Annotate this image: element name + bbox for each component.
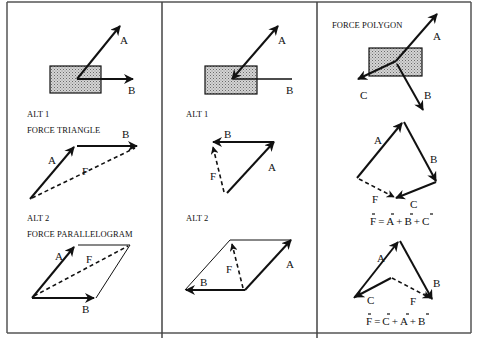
eq-A: A bbox=[386, 215, 394, 227]
eq-F: F bbox=[370, 215, 376, 227]
label-B: B bbox=[82, 303, 89, 315]
vector-B bbox=[404, 122, 436, 181]
alt1-label: ALT 1 bbox=[186, 109, 208, 119]
vector-B bbox=[400, 241, 432, 299]
force-triangle: A B F bbox=[30, 128, 137, 199]
force-parallelogram: A F B bbox=[32, 245, 130, 315]
middle-body-diagram: A B bbox=[205, 26, 293, 96]
label-A: A bbox=[433, 30, 441, 42]
label-F: F bbox=[210, 170, 216, 182]
vector-A bbox=[32, 247, 74, 298]
right-panel: FORCE POLYGON A C B A B F C F=A+B+C bbox=[332, 14, 441, 327]
vector-A bbox=[227, 142, 274, 193]
alt2-label: ALT 2 bbox=[27, 213, 49, 223]
resultant-F bbox=[232, 244, 243, 288]
label-A: A bbox=[377, 252, 385, 264]
eq-C: C bbox=[422, 215, 429, 227]
label-A: A bbox=[286, 258, 294, 270]
vector-C bbox=[396, 182, 436, 198]
label-C: C bbox=[410, 198, 417, 210]
label-A: A bbox=[55, 250, 63, 262]
equation-1: F=A+B+C bbox=[370, 214, 433, 227]
label-A: A bbox=[278, 34, 286, 46]
label-F: F bbox=[410, 295, 416, 307]
left-panel: A B ALT 1 FORCE TRIANGLE A B F ALT 2 FOR… bbox=[27, 26, 137, 315]
force-parallelogram-title: FORCE PARALLELOGRAM bbox=[27, 229, 133, 239]
label-A: A bbox=[268, 161, 276, 173]
label-B: B bbox=[128, 84, 135, 96]
svg-text:F=A+B+C: F=A+B+C bbox=[370, 215, 429, 227]
middle-force-parallelogram: F A B bbox=[185, 240, 294, 290]
eq-B: B bbox=[418, 315, 425, 327]
eq-A: A bbox=[400, 315, 408, 327]
label-A: A bbox=[374, 134, 382, 146]
eq-F: F bbox=[366, 315, 372, 327]
label-B: B bbox=[430, 153, 437, 165]
force-triangle-title: FORCE TRIANGLE bbox=[27, 125, 100, 135]
label-B: B bbox=[424, 89, 431, 101]
force-diagram: A B ALT 1 FORCE TRIANGLE A B F ALT 2 FOR… bbox=[0, 0, 479, 339]
middle-force-triangle: B F A bbox=[210, 128, 276, 193]
eq-C: C bbox=[382, 315, 389, 327]
vector-A bbox=[245, 240, 291, 290]
eq-B: B bbox=[405, 215, 412, 227]
force-polygon-2: A B C F bbox=[354, 241, 440, 307]
svg-text:F=C+A+B: F=C+A+B bbox=[366, 315, 425, 327]
force-polygon-title: FORCE POLYGON bbox=[332, 20, 403, 30]
rigid-body bbox=[205, 66, 257, 94]
label-C: C bbox=[360, 89, 367, 101]
label-B: B bbox=[122, 128, 129, 140]
label-C: C bbox=[367, 294, 374, 306]
label-F: F bbox=[226, 263, 232, 275]
vector-A bbox=[357, 123, 402, 178]
middle-panel: A B ALT 1 B F A ALT 2 F A B bbox=[185, 26, 294, 290]
label-B: B bbox=[200, 276, 207, 288]
alt2-label: ALT 2 bbox=[186, 213, 208, 223]
vector-A bbox=[354, 242, 398, 298]
label-A: A bbox=[48, 154, 56, 166]
label-B: B bbox=[224, 128, 231, 140]
label-F: F bbox=[82, 165, 88, 177]
alt1-label: ALT 1 bbox=[27, 109, 49, 119]
label-B: B bbox=[286, 84, 293, 96]
force-polygon-1: A B F C bbox=[357, 122, 437, 210]
label-A: A bbox=[120, 34, 128, 46]
equation-2: F=C+A+B bbox=[366, 314, 429, 327]
left-body-diagram: A B bbox=[50, 26, 135, 96]
label-F: F bbox=[86, 253, 92, 265]
label-F: F bbox=[372, 193, 378, 205]
label-B: B bbox=[433, 277, 440, 289]
